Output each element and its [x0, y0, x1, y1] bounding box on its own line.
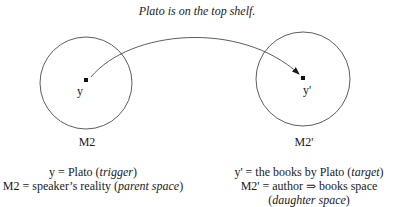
space-m2-circle	[40, 37, 132, 129]
diagram-title: Plato is on the top shelf.	[139, 4, 256, 18]
element-yprime-label: y'	[303, 83, 311, 97]
space-m2-label: M2	[79, 135, 96, 149]
element-yprime-marker	[301, 76, 305, 80]
space-m2prime-label: M2'	[295, 135, 314, 149]
element-y-marker	[84, 78, 88, 82]
legend-m2prime-line3: (daughter space)	[268, 193, 350, 207]
legend-m2prime-line2: M2' = author ⇒ books space	[241, 179, 378, 193]
legend-m2-line2: M2 = speaker’s reality (parent space)	[3, 179, 183, 193]
legend-m2-line1: y = Plato (trigger)	[49, 165, 137, 179]
element-y-label: y	[77, 84, 83, 98]
connector-arrow	[91, 37, 299, 77]
legend-m2prime-line1: y' = the books by Plato (target)	[234, 165, 383, 179]
